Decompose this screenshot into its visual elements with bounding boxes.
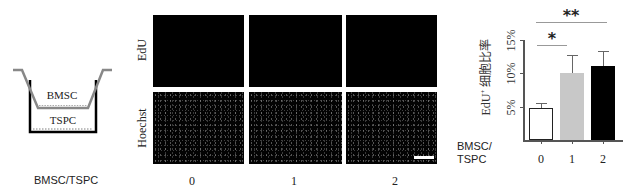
column-label-0: 0 xyxy=(182,174,202,189)
hoechst-image-0 xyxy=(153,92,244,164)
hoechst-image-1 xyxy=(249,92,342,164)
x-axis-label: BMSC/ TSPC xyxy=(457,140,492,166)
bar-0 xyxy=(529,108,553,140)
y-tick-label-5: 5% xyxy=(504,93,519,123)
scale-bar xyxy=(414,156,434,159)
significance-mark-0-1: * xyxy=(542,29,562,48)
y-axis xyxy=(523,40,525,141)
error-cap-2 xyxy=(598,51,609,52)
edu-image-0 xyxy=(153,15,244,87)
tspc-label: TSPC xyxy=(33,114,93,126)
bar-1 xyxy=(560,73,584,140)
error-bar-1 xyxy=(572,55,573,73)
error-cap-0 xyxy=(536,103,547,104)
edu-image-2 xyxy=(346,15,437,87)
edu-image-1 xyxy=(249,15,342,87)
column-label-2: 2 xyxy=(385,174,405,189)
x-tick-label-2: 2 xyxy=(593,152,613,167)
edu-ratio-bar-chart: EdU+ 细胞比率 BMSC/ TSPC 15% 10% 5% 0 1 2 **… xyxy=(440,0,627,194)
x-tick xyxy=(603,140,604,144)
error-cap-1 xyxy=(567,55,578,56)
y-tick xyxy=(520,73,524,74)
transwell-diagram: BMSC TSPC BMSC/TSPC xyxy=(0,0,130,194)
x-axis xyxy=(523,140,623,142)
bar-2 xyxy=(591,66,615,140)
row-label-hoechst: Hoechst xyxy=(132,98,152,158)
x-tick-label-1: 1 xyxy=(562,152,582,167)
x-tick xyxy=(541,140,542,144)
y-axis-label: EdU+ 细胞比率 xyxy=(476,22,494,132)
significance-mark-0-2: ** xyxy=(556,6,586,25)
hoechst-image-2 xyxy=(346,92,437,164)
y-tick-label-15: 15% xyxy=(504,26,519,56)
x-tick xyxy=(572,140,573,144)
bmsc-label: BMSC xyxy=(32,89,92,101)
y-tick-label-10: 10% xyxy=(504,59,519,89)
x-tick-label-0: 0 xyxy=(531,152,551,167)
y-tick xyxy=(520,107,524,108)
group-axis-label: BMSC/TSPC xyxy=(34,174,98,186)
row-label-edu: EdU xyxy=(132,30,152,70)
column-label-1: 1 xyxy=(284,174,304,189)
error-bar-2 xyxy=(603,51,604,66)
y-tick xyxy=(520,40,524,41)
